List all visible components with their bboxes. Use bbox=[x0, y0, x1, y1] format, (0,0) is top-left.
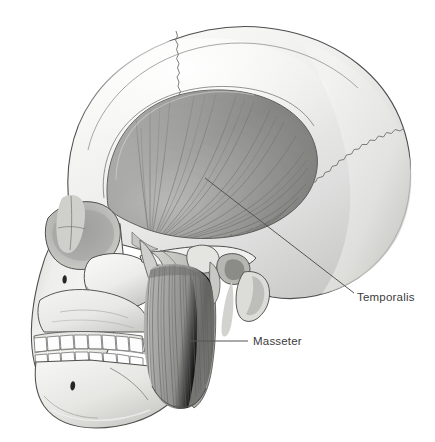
masseter-muscle bbox=[144, 264, 215, 409]
styloid-process bbox=[222, 282, 234, 337]
temporalis-label: Temporalis bbox=[357, 291, 415, 303]
skull-illustration: Temporalis Masseter bbox=[0, 0, 435, 442]
anatomical-figure: Temporalis Masseter bbox=[0, 0, 435, 442]
masseter-label: Masseter bbox=[253, 335, 302, 347]
